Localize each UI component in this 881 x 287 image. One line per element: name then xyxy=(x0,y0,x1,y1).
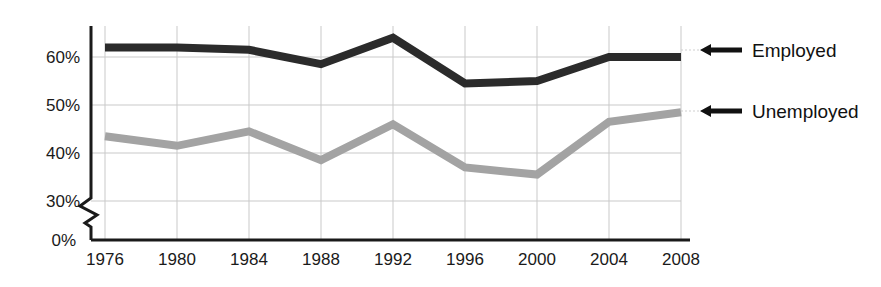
x-tick-label-1996: 1996 xyxy=(446,250,484,269)
y-axis-tick-labels: 60% 50% 40% 30% 0% xyxy=(46,48,80,250)
x-tick-label-1992: 1992 xyxy=(374,250,412,269)
line-chart: 60% 50% 40% 30% 0% 1976 1980 1984 1988 1… xyxy=(0,0,881,287)
chart-canvas: 60% 50% 40% 30% 0% 1976 1980 1984 1988 1… xyxy=(0,0,881,287)
employed-callout: Employed xyxy=(700,40,837,61)
x-tick-label-2004: 2004 xyxy=(590,250,628,269)
x-tick-label-1988: 1988 xyxy=(302,250,340,269)
x-tick-label-1976: 1976 xyxy=(86,250,124,269)
x-axis-tick-labels: 1976 1980 1984 1988 1992 1996 2000 2004 … xyxy=(86,250,700,269)
y-axis-with-break xyxy=(80,26,97,240)
arrow-left-icon xyxy=(700,105,742,117)
y-tick-label-40: 40% xyxy=(46,144,80,163)
y-tick-label-50: 50% xyxy=(46,96,80,115)
arrow-left-icon xyxy=(700,44,742,56)
x-tick-label-2008: 2008 xyxy=(662,250,700,269)
x-tick-label-1980: 1980 xyxy=(158,250,196,269)
employed-callout-label: Employed xyxy=(752,40,837,61)
y-tick-label-0: 0% xyxy=(51,231,76,250)
unemployed-callout: Unemployed xyxy=(700,101,859,122)
unemployed-callout-label: Unemployed xyxy=(752,101,859,122)
x-tick-label-1984: 1984 xyxy=(230,250,268,269)
x-tick-label-2000: 2000 xyxy=(518,250,556,269)
y-tick-label-60: 60% xyxy=(46,48,80,67)
y-tick-label-30: 30% xyxy=(46,192,80,211)
